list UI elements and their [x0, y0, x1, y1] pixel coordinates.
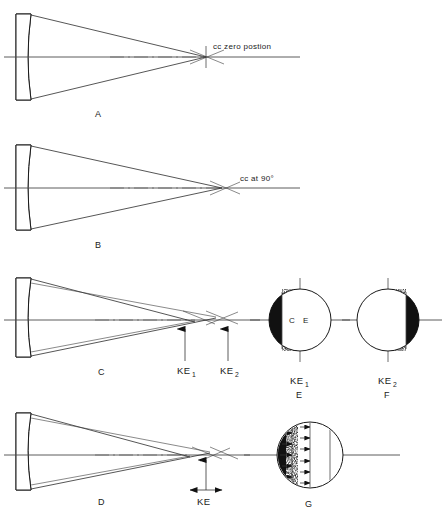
panel-a-annotation: cc zero postion — [213, 42, 271, 51]
optical-ray-figure: cc zero postion A cc at 90° B — [0, 0, 442, 528]
panel-c-ke1-label: KE — [177, 365, 190, 376]
panel-b-ray-upper — [31, 146, 222, 188]
field-f-marker-subscript: 2 — [393, 381, 397, 388]
panel-b: cc at 90° B — [4, 145, 300, 250]
panel-d-letter: D — [98, 497, 105, 507]
panel-c-ray-lower-b — [31, 321, 195, 352]
panel-d-marker-ke: KE — [190, 460, 222, 507]
field-e-center-label-e: E — [303, 316, 308, 325]
panel-c-marker-ke1: KE 1 — [177, 329, 196, 378]
panel-d-ke-label: KE — [197, 496, 210, 507]
panel-a-letter: A — [95, 109, 102, 119]
field-e-marker-subscript: 1 — [305, 381, 309, 388]
panel-d-ray-lower-b — [31, 456, 190, 485]
panel-c-ray-upper-a — [31, 279, 195, 322]
field-view-g: G — [244, 420, 400, 509]
panel-c: KE 1 KE 2 C — [4, 278, 260, 378]
panel-c-letter: C — [98, 367, 105, 377]
panel-c-mirror — [16, 278, 31, 357]
field-e-center-label-c: C — [289, 316, 295, 325]
panel-c-ray-lower-a — [31, 318, 216, 356]
field-e-letter: E — [296, 390, 303, 400]
panel-c-ke2-subscript: 2 — [235, 371, 239, 378]
panel-d-ray-upper-a — [31, 414, 190, 457]
panel-d-mirror — [16, 413, 31, 490]
panel-a-ray-lower — [31, 57, 206, 99]
panel-c-ray-upper-b — [31, 283, 216, 317]
panel-d-ray-lower-a — [31, 453, 210, 489]
panel-c-marker-ke2: KE 2 — [220, 329, 239, 378]
field-f-letter: F — [384, 390, 390, 400]
panel-b-annotation: cc at 90° — [240, 174, 274, 183]
field-e-marker-label: KE — [290, 375, 303, 386]
panel-c-ke2-label: KE — [220, 365, 233, 376]
field-view-f: KE 2 F — [342, 278, 442, 400]
field-view-e: C E KE 1 E — [250, 278, 350, 400]
panel-a-ray-upper — [31, 15, 206, 57]
panel-a: cc zero postion A — [4, 14, 300, 119]
panel-b-letter: B — [95, 240, 102, 250]
panel-d-focus-marks — [192, 447, 238, 461]
figure-canvas: cc zero postion A cc at 90° B — [0, 0, 442, 528]
panel-d: KE D — [4, 413, 250, 507]
field-g-letter: G — [305, 499, 313, 509]
panel-b-mirror — [16, 145, 31, 230]
panel-d-ray-upper-b — [31, 418, 210, 452]
panel-c-ke1-subscript: 1 — [192, 371, 196, 378]
panel-b-ray-lower — [31, 188, 222, 229]
field-f-marker-label: KE — [378, 375, 391, 386]
